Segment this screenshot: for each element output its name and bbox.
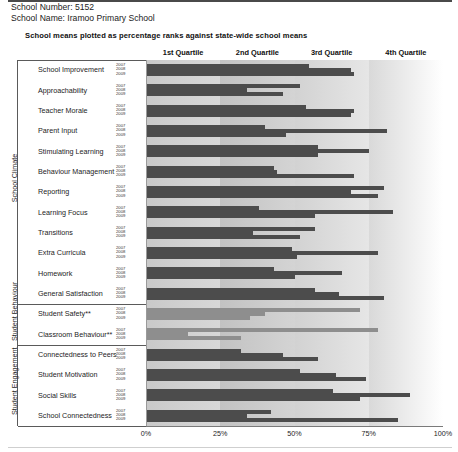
bar-group bbox=[146, 406, 443, 426]
section-label: Student Engagement bbox=[10, 341, 19, 422]
category-label: Learning Focus bbox=[38, 208, 88, 217]
category-label: Homework bbox=[38, 269, 72, 278]
category-label: Classroom Behaviour** bbox=[38, 330, 112, 339]
bar-group bbox=[146, 243, 443, 263]
bar-groups bbox=[146, 60, 443, 426]
year-stack: 200720082009 bbox=[116, 389, 134, 402]
chart-subtitle: School means plotted as percentage ranks… bbox=[25, 31, 307, 40]
category-axis: School Improvement200720082009Approachab… bbox=[0, 60, 146, 426]
bar-2009 bbox=[146, 418, 398, 422]
bar-2009 bbox=[146, 336, 241, 340]
document-header: School Number: 5152 School Name: Iramoo … bbox=[11, 2, 155, 24]
bar-2009 bbox=[146, 174, 354, 178]
year-stack: 200720082009 bbox=[116, 185, 134, 198]
bar-2009 bbox=[146, 72, 354, 76]
bar-group bbox=[146, 182, 443, 202]
year-label: 2009 bbox=[116, 72, 134, 76]
section-divider bbox=[18, 60, 146, 61]
bar-group bbox=[146, 101, 443, 121]
year-label: 2009 bbox=[116, 356, 134, 360]
bar-2009 bbox=[146, 113, 351, 117]
percentage-rank-chart: School Improvement200720082009Approachab… bbox=[0, 60, 458, 432]
year-stack: 200720082009 bbox=[116, 145, 134, 158]
year-label: 2009 bbox=[116, 173, 134, 177]
year-stack: 200720082009 bbox=[116, 267, 134, 280]
x-tick-0: 0% bbox=[141, 429, 151, 438]
x-tick-25: 25% bbox=[213, 429, 227, 438]
year-label: 2009 bbox=[116, 417, 134, 421]
quartile-label-4: 4th Quartile bbox=[369, 48, 443, 57]
year-label: 2009 bbox=[116, 377, 134, 381]
category-label: Social Skills bbox=[38, 391, 76, 400]
category-label: Approachability bbox=[38, 86, 87, 95]
year-stack: 200720082009 bbox=[116, 287, 134, 300]
bar-group bbox=[146, 345, 443, 365]
category-label: Parent Input bbox=[38, 126, 77, 135]
category-label: Student Safety** bbox=[38, 309, 91, 318]
year-stack: 200720082009 bbox=[116, 246, 134, 259]
year-stack: 200720082009 bbox=[116, 206, 134, 219]
category-label: School Connectedness bbox=[38, 411, 112, 420]
quartile-header-row: 1st Quartile 2nd Quartile 3rd Quartile 4… bbox=[146, 48, 443, 59]
year-label: 2009 bbox=[116, 255, 134, 259]
year-stack: 200720082009 bbox=[116, 104, 134, 117]
school-name: School Name: Iramoo Primary School bbox=[11, 13, 155, 24]
year-label: 2009 bbox=[116, 153, 134, 157]
bar-2009 bbox=[146, 194, 378, 198]
bar-2009 bbox=[146, 133, 286, 137]
year-label: 2009 bbox=[116, 275, 134, 279]
bottom-divider bbox=[8, 447, 452, 448]
year-label: 2009 bbox=[116, 214, 134, 218]
section-label: Student Behaviour bbox=[10, 300, 19, 341]
bar-group bbox=[146, 223, 443, 243]
bar-group bbox=[146, 60, 443, 80]
bar-2009 bbox=[146, 235, 300, 239]
x-tick-50: 50% bbox=[287, 429, 301, 438]
year-label: 2009 bbox=[116, 234, 134, 238]
bar-2009 bbox=[146, 275, 295, 279]
year-stack: 200720082009 bbox=[116, 84, 134, 97]
section-label: School Climate bbox=[10, 56, 19, 300]
bar-2009 bbox=[146, 255, 297, 259]
year-stack: 200720082009 bbox=[116, 165, 134, 178]
bar-group bbox=[146, 202, 443, 222]
year-stack: 200720082009 bbox=[116, 124, 134, 137]
school-number: School Number: 5152 bbox=[11, 2, 155, 13]
category-label: Transitions bbox=[38, 228, 73, 237]
bar-2009 bbox=[146, 377, 366, 381]
x-axis-tick-labels: 0% 25% 50% 75% 100% bbox=[146, 429, 443, 441]
year-label: 2009 bbox=[116, 295, 134, 299]
year-stack: 200720082009 bbox=[116, 226, 134, 239]
bar-group bbox=[146, 162, 443, 182]
plot-area bbox=[146, 60, 443, 426]
bar-group bbox=[146, 304, 443, 324]
category-label: Extra Curricula bbox=[38, 248, 86, 257]
quartile-label-1: 1st Quartile bbox=[146, 48, 220, 57]
bar-group bbox=[146, 121, 443, 141]
bar-group bbox=[146, 284, 443, 304]
year-label: 2009 bbox=[116, 194, 134, 198]
bar-2009 bbox=[146, 92, 283, 96]
category-label: General Satisfaction bbox=[38, 289, 103, 298]
bar-2009 bbox=[146, 214, 315, 218]
section-divider bbox=[18, 304, 146, 305]
x-axis-line bbox=[146, 426, 443, 427]
category-label: Student Motivation bbox=[38, 370, 98, 379]
category-label: Connectedness to Peers bbox=[38, 350, 117, 359]
bar-group bbox=[146, 324, 443, 344]
category-label: Behaviour Management bbox=[38, 167, 114, 176]
bar-group bbox=[146, 80, 443, 100]
category-label: Teacher Morale bbox=[38, 106, 88, 115]
year-label: 2009 bbox=[116, 397, 134, 401]
bar-group bbox=[146, 141, 443, 161]
x-tick-75: 75% bbox=[362, 429, 376, 438]
year-stack: 200720082009 bbox=[116, 328, 134, 341]
bar-group bbox=[146, 263, 443, 283]
x-tick-100: 100% bbox=[434, 429, 452, 438]
year-label: 2009 bbox=[116, 336, 134, 340]
category-label: Stimulating Learning bbox=[38, 147, 104, 156]
year-stack: 200720082009 bbox=[116, 368, 134, 381]
year-stack: 200720082009 bbox=[116, 348, 134, 361]
year-label: 2009 bbox=[116, 316, 134, 320]
category-label: School Improvement bbox=[38, 65, 104, 74]
